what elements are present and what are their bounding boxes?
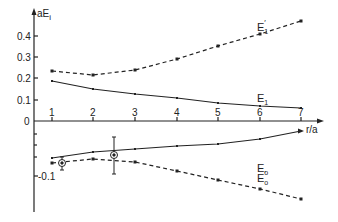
y-tick-0.1: 0.1 — [17, 95, 31, 106]
x-tick-4: 4 — [174, 107, 180, 118]
x-tick-6: 6 — [257, 107, 263, 118]
circled-point-1 — [59, 157, 66, 170]
x-tick-1: 1 — [49, 107, 55, 118]
x-tick-2: 2 — [90, 107, 96, 118]
y-tick-0: 0 — [24, 116, 30, 127]
x-tick-3: 3 — [132, 107, 138, 118]
circled-point-2 — [111, 137, 118, 174]
x-axis-title: r/a — [306, 124, 318, 135]
series-Eo — [52, 131, 301, 158]
x-tick-5: 5 — [215, 107, 221, 118]
y-tick-0.4: 0.4 — [17, 31, 31, 42]
y-tick-0.2: 0.2 — [17, 73, 31, 84]
label-E1-prime: E1′ — [257, 18, 268, 35]
y-axis-title: aEi — [37, 8, 51, 22]
series-Eo-markers — [51, 129, 304, 160]
y-tick-0.3: 0.3 — [17, 52, 31, 63]
label-E1: E1 — [257, 92, 268, 106]
chart: 0.4 0.3 0.2 0.1 0 -0.1 1 2 3 4 5 6 7 aEi… — [0, 0, 338, 222]
y-tick-neg-0.1: -0.1 — [38, 171, 56, 182]
